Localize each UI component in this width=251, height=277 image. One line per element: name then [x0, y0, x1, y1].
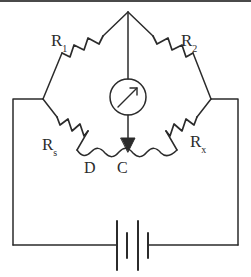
label-node-d: D — [84, 160, 96, 176]
label-rx-subscript: x — [201, 144, 206, 155]
label-rx-base: R — [190, 132, 201, 151]
label-rx: Rx — [190, 133, 206, 153]
label-node-c: C — [117, 160, 128, 176]
wire-outer-left — [13, 99, 43, 245]
label-r1: R1 — [51, 32, 67, 52]
wire-r2-to-right-node — [193, 53, 211, 99]
label-rs-base: R — [42, 135, 53, 154]
galvanometer-needle — [118, 88, 137, 107]
wire-right-node-to-rx — [197, 99, 211, 117]
wire-apex-to-r1 — [103, 12, 128, 36]
label-r1-subscript: 1 — [62, 43, 67, 54]
resistor-rs — [57, 117, 88, 136]
label-r2-subscript: 2 — [192, 43, 197, 54]
label-rs: Rs — [42, 136, 57, 156]
wire-r1-to-left-node — [43, 53, 62, 99]
sliding-contact-arrowhead — [121, 138, 135, 152]
wire-apex-to-r2 — [128, 12, 153, 36]
circuit-diagram-figure: R1 R2 Rs Rx D C — [0, 0, 251, 277]
wire-outer-right — [211, 99, 238, 245]
resistor-r1 — [62, 36, 103, 57]
label-rs-subscript: s — [53, 147, 57, 158]
label-r2-base: R — [181, 31, 192, 50]
label-r2: R2 — [181, 32, 197, 52]
wire-left-node-to-rs — [43, 99, 57, 117]
circuit-schematic-svg — [0, 0, 251, 277]
label-r1-base: R — [51, 31, 62, 50]
